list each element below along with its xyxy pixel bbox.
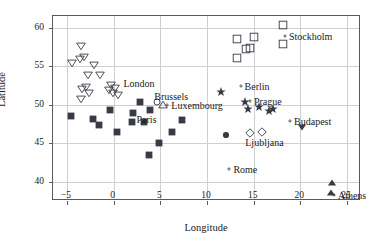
data-point-square-open bbox=[248, 31, 259, 42]
y-tick-label: 50 bbox=[35, 99, 45, 109]
data-point-triangle-down-open bbox=[112, 89, 123, 100]
y-tick-label: 55 bbox=[35, 60, 45, 70]
gridline-vertical bbox=[347, 16, 348, 199]
y-tick-label: 60 bbox=[35, 22, 45, 32]
x-tick-mark bbox=[207, 201, 208, 205]
data-point-square-filled bbox=[153, 138, 164, 149]
x-tick-label: −5 bbox=[61, 190, 71, 200]
data-point-square-open bbox=[244, 42, 255, 53]
annotation-dot-marker bbox=[238, 84, 243, 89]
data-point-square-filled bbox=[176, 115, 187, 126]
x-tick-mark bbox=[347, 201, 348, 205]
city-label-stockholm: Stockholm bbox=[289, 31, 332, 42]
data-point-star-filled bbox=[243, 104, 254, 115]
data-point-square-open bbox=[231, 52, 242, 63]
gridline-horizontal bbox=[53, 182, 359, 183]
gridline-horizontal bbox=[53, 143, 359, 144]
city-label-rome: Rome bbox=[233, 164, 257, 175]
data-point-triangle-down-open bbox=[76, 41, 87, 52]
y-axis-label: Latitude bbox=[0, 72, 7, 107]
y-tick-mark bbox=[49, 28, 53, 29]
x-tick-mark bbox=[254, 201, 255, 205]
data-point-star-filled bbox=[216, 86, 227, 97]
annotation-dot-marker bbox=[227, 167, 232, 172]
annotation-dot-marker bbox=[282, 34, 287, 39]
data-point-square-open bbox=[277, 20, 288, 31]
y-tick-label: 45 bbox=[35, 137, 45, 147]
data-point-square-filled bbox=[111, 126, 122, 137]
annotation-dot-marker bbox=[165, 103, 170, 108]
x-tick-label: 10 bbox=[201, 190, 211, 200]
y-tick-label: 40 bbox=[35, 176, 45, 186]
x-axis-label: Longitude bbox=[52, 222, 360, 233]
x-tick-label: 15 bbox=[248, 190, 258, 200]
annotation-dot-marker bbox=[331, 192, 336, 197]
x-tick-label: 5 bbox=[157, 190, 162, 200]
data-point-square-filled bbox=[65, 111, 76, 122]
city-label-london: London bbox=[123, 77, 154, 88]
annotation-dot-marker bbox=[247, 98, 252, 103]
data-point-triangle-down-open bbox=[84, 88, 95, 99]
scatter-chart-figure: StockholmLondonBrusselsLuxembourgParisBe… bbox=[0, 0, 382, 251]
x-tick-mark bbox=[67, 201, 68, 205]
data-point-circle-filled bbox=[220, 130, 231, 141]
data-point-square-filled bbox=[143, 149, 154, 160]
gridline-vertical bbox=[67, 16, 68, 199]
y-tick-mark bbox=[49, 105, 53, 106]
x-tick-mark bbox=[300, 201, 301, 205]
x-tick-label: 25 bbox=[341, 190, 351, 200]
x-tick-label: 0 bbox=[110, 190, 115, 200]
city-label-prague: Prague bbox=[254, 95, 282, 106]
city-label-budapest: Budapest bbox=[294, 115, 331, 126]
gridline-horizontal bbox=[53, 28, 359, 29]
data-point-square-filled bbox=[104, 105, 115, 116]
y-tick-mark bbox=[49, 143, 53, 144]
y-tick-mark bbox=[49, 66, 53, 67]
data-point-triangle-down-open bbox=[94, 70, 105, 81]
y-tick-mark bbox=[49, 182, 53, 183]
city-label-paris: Paris bbox=[137, 114, 157, 125]
gridline-vertical bbox=[300, 16, 301, 199]
city-label-ljubljana: Ljubljana bbox=[245, 137, 283, 148]
x-tick-label: 20 bbox=[295, 190, 305, 200]
plot-area: StockholmLondonBrusselsLuxembourgParisBe… bbox=[52, 15, 360, 200]
data-point-square-filled bbox=[93, 119, 104, 130]
data-point-square-filled bbox=[166, 127, 177, 138]
data-point-triangle-down-open bbox=[83, 69, 94, 80]
annotation-dot-marker bbox=[288, 118, 293, 123]
x-tick-mark bbox=[114, 201, 115, 205]
data-point-square-open bbox=[277, 38, 288, 49]
x-tick-mark bbox=[160, 201, 161, 205]
city-label-luxembourg: Luxembourg bbox=[171, 100, 222, 111]
city-label-berlin: Berlin bbox=[245, 81, 270, 92]
data-point-triangle-down-open bbox=[75, 54, 86, 65]
